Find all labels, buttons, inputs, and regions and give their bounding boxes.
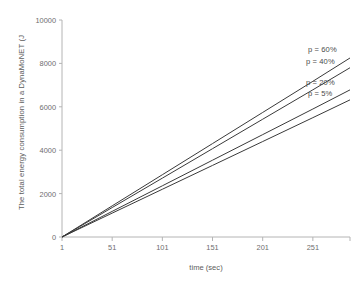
y-axis-tick-label: 2000 xyxy=(12,189,56,198)
series-label-p-60-: p = 60% xyxy=(308,45,337,54)
y-axis-tick-label: 10000 xyxy=(12,16,56,25)
x-axis-tick-label: 1 xyxy=(42,243,82,252)
y-axis-tick-label: 8000 xyxy=(12,59,56,68)
series-label-p-20-: p = 20% xyxy=(306,78,335,87)
y-axis-tick-label: 4000 xyxy=(12,146,56,155)
x-axis-title: time (sec) xyxy=(62,263,350,272)
x-axis-tick-label: 101 xyxy=(142,243,182,252)
x-axis-tick-label: 251 xyxy=(293,243,333,252)
series-label-p-5-: p = 5% xyxy=(308,89,332,98)
axes xyxy=(59,20,350,241)
series-line-p-40- xyxy=(62,68,350,237)
x-axis-tick-label: 151 xyxy=(193,243,233,252)
series-line-p-5- xyxy=(62,100,350,237)
x-axis-tick-labels: 151101151201251 xyxy=(0,243,364,259)
series-line-p-20- xyxy=(62,90,350,237)
chart-figure: The total energy consumption in a DynaMo… xyxy=(0,0,364,289)
y-axis-tick-label: 6000 xyxy=(12,102,56,111)
x-axis-tick-label: 51 xyxy=(92,243,132,252)
x-axis-tick-label: 201 xyxy=(243,243,283,252)
series-label-p-40-: p = 40% xyxy=(306,57,335,66)
y-axis-tick-label: 0 xyxy=(12,233,56,242)
